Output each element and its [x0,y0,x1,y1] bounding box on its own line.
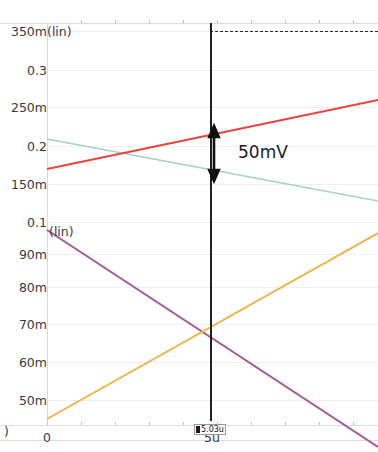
ytick-label: 90m [19,247,47,262]
ytick-label: 50m [19,393,47,408]
ytick-label: 150m [11,177,47,192]
ytick-label: 0.2 [27,139,47,154]
ytick-label: 250m [11,100,47,115]
ytick-label: 70m [19,317,47,332]
cursor-handle-icon [196,426,200,433]
cursor-value-badge[interactable]: 5.03u [194,424,226,435]
y-axis-scale-note-top: (lin) [47,24,72,39]
ytick-label: 350m [11,24,47,39]
ytick-label: 0.3 [27,63,47,78]
waveform-plot: 50mV 350m 0.3 250m 0.2 150m 0.1 90m 80m … [0,0,378,452]
xtick-label-0: 0 [43,430,51,445]
y-axis-scale-note-mid: (lin) [49,224,74,239]
ytick-label: 60m [19,355,47,370]
ytick-label: 0.1 [27,215,47,230]
left-paren-text: ) [4,424,9,439]
ytick-label: 80m [19,280,47,295]
cursor-value-label: 5.03u [201,425,224,434]
delta-annotation-label: 50mV [238,142,288,162]
